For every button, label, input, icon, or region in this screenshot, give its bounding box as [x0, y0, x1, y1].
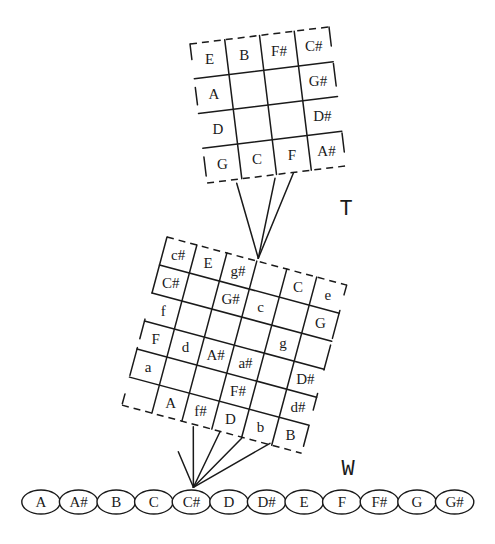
grid-t-cell-label: G#: [309, 73, 328, 89]
note-node: D: [210, 490, 248, 514]
connector-w-line: [178, 452, 193, 488]
connector-w-line: [193, 438, 241, 487]
note-node: G#: [435, 490, 473, 514]
grid-t: EBF#C#AG#DD#GCFA#: [190, 27, 346, 183]
connector-w: [178, 427, 270, 488]
note-node: D#: [247, 490, 285, 514]
note-node-label: D#: [257, 494, 276, 510]
grid-w-cell-label: B: [285, 427, 295, 443]
note-node: F#: [360, 490, 398, 514]
grid-w-cell-label: A: [165, 395, 176, 411]
grid-w-cell-label: A#: [206, 347, 225, 363]
grid-w-cell-label: g#: [231, 263, 247, 279]
grid-w-cell-label: c#: [171, 247, 186, 263]
note-node-label: C: [149, 494, 159, 510]
grid-w-cell-label: C#: [162, 275, 180, 291]
grid-w-cell-label: f#: [194, 403, 207, 419]
note-node: C#: [172, 490, 210, 514]
note-node-label: A: [36, 494, 47, 510]
grid-w-cell-label: E: [204, 255, 213, 271]
grid-w-right-edge: [344, 285, 347, 295]
grid-w-cell-label: F#: [230, 383, 246, 399]
grid-w-cell-label: G: [315, 315, 326, 331]
grid-t-right-edge: [333, 63, 336, 86]
grid-t-cell-label: E: [205, 51, 214, 67]
grid-w-right-edge: [304, 426, 309, 446]
grid-t-cell-label: A: [208, 86, 219, 102]
note-node: F: [323, 490, 361, 514]
grid-w-left-edge: [130, 348, 138, 376]
grid-w-cell-label: d#: [290, 399, 306, 415]
note-node-label: E: [300, 494, 309, 510]
note-node: G: [398, 490, 436, 514]
grid-w-right-edge: [324, 345, 331, 370]
note-node-label: D: [224, 494, 235, 510]
grid-w-cell-label: G#: [221, 291, 240, 307]
connector-w-line: [193, 443, 270, 487]
connector-t-line: [237, 183, 259, 258]
grid-t-cell-label: F#: [271, 43, 287, 59]
grid-w-cell-label: f: [161, 303, 166, 319]
grid-t-left-edge: [190, 44, 192, 60]
grid-w-cell-label: g: [279, 335, 287, 351]
grid-w-cell-label: a: [145, 359, 152, 375]
grid-w-cell-label: D: [225, 411, 236, 427]
grid-t-cell-label: D: [213, 121, 224, 137]
grid-t-cell-label: A#: [317, 143, 336, 159]
grid-w-right-edge: [332, 310, 340, 338]
note-node-label: C#: [183, 494, 201, 510]
grid-t-cell-label: G: [217, 156, 228, 172]
grid-t-right-edge: [329, 27, 331, 46]
connector-t-line: [258, 178, 275, 258]
note-node-label: G#: [445, 494, 464, 510]
grid-w-cell-label: a#: [238, 355, 253, 371]
grid-w-left-edge: [122, 394, 125, 404]
note-node: E: [285, 490, 323, 514]
grid-t-cell-label: F: [288, 147, 296, 163]
connector-t: [237, 173, 294, 258]
note-node-label: G: [412, 494, 423, 510]
grid-w-cell-label: b: [257, 419, 265, 435]
grid-w-cell-label: c: [257, 299, 264, 315]
grid-t-cell-label: C#: [305, 38, 323, 54]
grid-w-cell-label: D#: [296, 371, 315, 387]
grid-t-cell-label: C: [252, 151, 262, 167]
grid-t-left-edge: [204, 157, 206, 176]
chromatic-scale-row: AA#BCC#DD#EFF#GG#: [22, 490, 474, 514]
grid-w-cell-label: C: [293, 279, 303, 295]
note-node-label: F#: [371, 494, 387, 510]
note-node: A#: [59, 490, 97, 514]
grid-t-left-edge: [195, 87, 197, 104]
grid-w: c#Eg#CeC#G#cGfgFdA#a#D#aF#d#Af#DbB: [122, 237, 347, 453]
note-grid-diagram: EBF#C#AG#DD#GCFA# c#Eg#CeC#G#cGfgFdA#a#D…: [0, 0, 495, 544]
grid-t-cell-label: D#: [313, 108, 332, 124]
note-node-label: B: [111, 494, 121, 510]
note-node-label: A#: [69, 494, 88, 510]
grid-w-left-edge: [140, 319, 145, 339]
note-node: A: [22, 490, 60, 514]
label-t: T: [339, 197, 352, 222]
note-node: C: [135, 490, 173, 514]
grid-w-cell-label: e: [325, 287, 332, 303]
note-node: B: [97, 490, 135, 514]
connector-t-line: [258, 173, 293, 258]
label-w: W: [341, 457, 355, 482]
grid-t-right-edge: [342, 133, 344, 152]
grid-w-cell-label: d: [182, 339, 190, 355]
note-node-label: F: [338, 494, 346, 510]
grid-w-cell-label: F: [152, 331, 160, 347]
grid-t-cell-label: B: [239, 47, 249, 63]
